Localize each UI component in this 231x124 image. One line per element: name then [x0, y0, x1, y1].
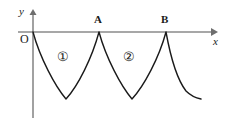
curve-path — [33, 32, 201, 99]
region-label-1: ① — [57, 50, 69, 63]
point-label-a: A — [94, 14, 102, 25]
origin-label: O — [20, 33, 29, 45]
y-axis-label: y — [19, 6, 24, 17]
x-axis-label: x — [213, 36, 218, 47]
math-figure: y x O A B ① ② — [0, 0, 231, 124]
figure-canvas — [0, 0, 231, 124]
region-label-2: ② — [123, 50, 135, 63]
y-axis-arrowhead — [30, 9, 37, 15]
point-label-b: B — [161, 14, 168, 25]
